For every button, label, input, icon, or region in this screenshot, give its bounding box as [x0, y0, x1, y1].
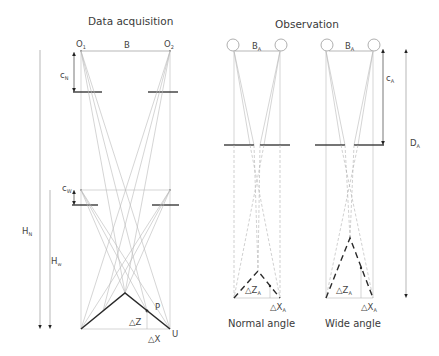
delta-z-label: △Z: [129, 317, 142, 327]
point-p-label: P: [155, 302, 160, 312]
delta-x-label: △X: [148, 334, 161, 344]
height-normal-label: HN: [22, 226, 32, 237]
left-eye-icon: [227, 39, 239, 51]
focal-a-label: cA: [386, 73, 395, 84]
observation-title: Observation: [275, 18, 339, 30]
corner-u-label: U: [172, 329, 178, 339]
focal-normal-label: cN: [60, 70, 69, 81]
focal-wide-label: cW: [62, 183, 72, 194]
wide-perceived-surface: [326, 238, 373, 298]
camera-o2-label: O2: [164, 39, 174, 50]
distance-a-label: DA: [410, 138, 421, 149]
normal-baseline-label: BA: [252, 41, 262, 52]
left-eye-icon: [321, 39, 333, 51]
wide-angle-view: BA △ZA △XA cA DA Wide a: [315, 39, 421, 329]
wide-delta-x-label: △XA: [361, 302, 377, 313]
wide-angle-caption: Wide angle: [325, 318, 381, 329]
baseline-b-label: B: [124, 40, 130, 50]
normal-angle-view: BA △ZA △XA Normal angle: [224, 39, 295, 329]
height-wide-label: Hw: [51, 256, 62, 267]
stereo-geometry-diagram: Data acquisition O1 O2 B cN: [0, 0, 439, 356]
wide-delta-z-label: △ZA: [336, 285, 352, 296]
normal-delta-x-label: △XA: [270, 302, 286, 313]
camera-o1-label: O1: [76, 39, 86, 50]
normal-angle-caption: Normal angle: [228, 318, 295, 329]
observation-panel: Observation BA △ZA △: [224, 18, 421, 329]
data-acquisition-title: Data acquisition: [88, 15, 173, 27]
normal-delta-z-label: △ZA: [245, 285, 261, 296]
wide-baseline-label: BA: [345, 41, 355, 52]
data-acquisition-panel: Data acquisition O1 O2 B cN: [22, 15, 179, 344]
right-eye-icon: [368, 39, 380, 51]
right-eye-icon: [275, 39, 287, 51]
